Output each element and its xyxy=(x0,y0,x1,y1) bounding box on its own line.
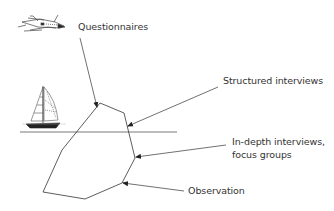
in-depth-arrow xyxy=(136,145,226,157)
label-questionnaires: Questionnaires xyxy=(78,21,148,33)
iceberg-shape xyxy=(43,103,135,199)
label-structured-interviews: Structured interviews xyxy=(223,75,323,87)
structured-interviews-arrow xyxy=(128,87,218,126)
iceberg-diagram xyxy=(0,0,334,211)
label-observation: Observation xyxy=(188,185,245,197)
label-in-depth-line2: focus groups xyxy=(232,149,292,161)
sailboat-icon xyxy=(22,86,66,128)
questionnaires-arrow xyxy=(80,38,97,107)
label-in-depth-line1: In-depth interviews, xyxy=(232,136,325,148)
airplane-icon xyxy=(18,15,65,31)
observation-arrow xyxy=(123,183,184,191)
